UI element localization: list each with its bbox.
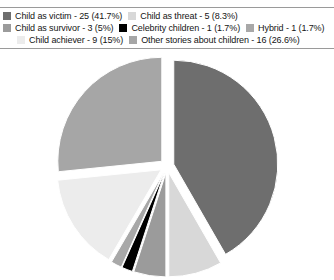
- pie-slice[interactable]: [58, 57, 162, 171]
- legend-item-celebrity-children[interactable]: Celebrity children - 1 (1.7%): [119, 23, 240, 33]
- pie-plot-area: [0, 54, 334, 280]
- legend-swatch-child-as-survivor: [3, 24, 11, 32]
- legend-swatch-child-as-victim: [3, 12, 11, 20]
- legend-item-hybrid[interactable]: Hybrid - 1 (1.7%): [246, 23, 324, 33]
- legend-label-other-stories: Other stories about children - 16 (26.6%…: [141, 35, 299, 45]
- legend-item-other-stories[interactable]: Other stories about children - 16 (26.6%…: [129, 35, 299, 45]
- chart-legend: Child as victim - 25 (41.7%) Child as th…: [0, 7, 334, 49]
- legend-item-child-as-threat[interactable]: Child as threat - 5 (8.3%): [128, 11, 237, 21]
- legend-swatch-other-stories: [129, 36, 137, 44]
- legend-row-3: Child achiever - 9 (15%) Other stories a…: [0, 34, 334, 46]
- legend-swatch-hybrid: [246, 24, 254, 32]
- legend-item-child-as-victim[interactable]: Child as victim - 25 (41.7%): [3, 11, 122, 21]
- legend-label-child-as-threat: Child as threat - 5 (8.3%): [140, 11, 237, 21]
- legend-swatch-child-achiever: [17, 36, 25, 44]
- legend-swatch-celebrity-children: [119, 24, 127, 32]
- legend-item-child-as-survivor[interactable]: Child as survivor - 3 (5%): [3, 23, 113, 33]
- legend-row-2: Child as survivor - 3 (5%) Celebrity chi…: [0, 22, 334, 34]
- legend-swatch-child-as-threat: [128, 12, 136, 20]
- legend-label-child-as-survivor: Child as survivor - 3 (5%): [15, 23, 113, 33]
- legend-label-hybrid: Hybrid - 1 (1.7%): [258, 23, 324, 33]
- pie-chart-figure: Child as victim - 25 (41.7%) Child as th…: [0, 0, 334, 280]
- legend-label-celebrity-children: Celebrity children - 1 (1.7%): [131, 23, 240, 33]
- legend-label-child-achiever: Child achiever - 9 (15%): [29, 35, 123, 45]
- legend-row-1: Child as victim - 25 (41.7%) Child as th…: [0, 10, 334, 22]
- legend-label-child-as-victim: Child as victim - 25 (41.7%): [15, 11, 122, 21]
- pie-svg: [47, 54, 287, 280]
- legend-item-child-achiever[interactable]: Child achiever - 9 (15%): [17, 35, 123, 45]
